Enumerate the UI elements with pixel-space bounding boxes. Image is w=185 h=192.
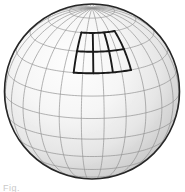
sphere-globe-figure bbox=[0, 0, 185, 192]
figure-root: Fig. bbox=[0, 0, 185, 192]
caption-sliver: Fig. bbox=[3, 184, 43, 192]
patch-meridian-edge bbox=[93, 33, 94, 73]
